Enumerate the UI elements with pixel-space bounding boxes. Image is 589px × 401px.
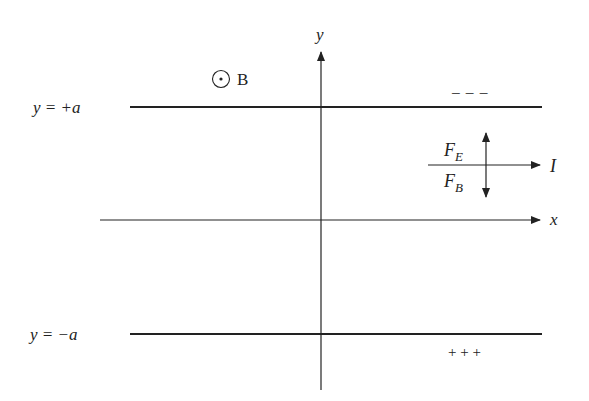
- bottom-plate-charge: + + +: [448, 344, 481, 360]
- diagram-svg: y x y = +a − − − y = −a + + + B I FE FB: [0, 0, 589, 401]
- field-dot-icon: [219, 77, 222, 80]
- y-axis-label: y: [314, 25, 324, 44]
- top-plate-charge: − − −: [451, 84, 488, 103]
- current-label: I: [549, 156, 557, 176]
- electric-force-sub: E: [454, 149, 463, 164]
- magnetic-force-label: FB: [443, 171, 463, 195]
- electric-force-label: FE: [443, 140, 463, 164]
- bottom-plate-label: y = −a: [28, 325, 78, 344]
- magnetic-force-sub: B: [455, 180, 463, 195]
- x-axis-label: x: [549, 210, 558, 229]
- diagram-canvas: y x y = +a − − − y = −a + + + B I FE FB: [0, 0, 589, 401]
- field-label: B: [237, 70, 248, 89]
- top-plate-label: y = +a: [31, 98, 81, 117]
